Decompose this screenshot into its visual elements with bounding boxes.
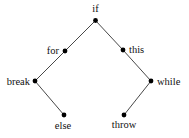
node-dot bbox=[62, 113, 67, 118]
tree-node-else: else bbox=[55, 113, 72, 131]
node-dot bbox=[121, 48, 126, 53]
node-dot bbox=[33, 79, 38, 84]
edge-break-else bbox=[35, 81, 64, 115]
node-label: this bbox=[129, 44, 144, 55]
node-label: while bbox=[157, 76, 181, 87]
node-label: for bbox=[47, 45, 60, 56]
tree-node-throw: throw bbox=[112, 113, 137, 130]
tree-node-if: if bbox=[92, 3, 99, 23]
node-dot bbox=[93, 18, 98, 23]
binary-tree-diagram: ifforthisbreakwhileelsethrow bbox=[0, 0, 189, 138]
node-dot bbox=[63, 49, 68, 54]
node-dot bbox=[149, 79, 154, 84]
tree-node-break: break bbox=[7, 76, 38, 87]
node-label: break bbox=[7, 76, 31, 87]
tree-node-for: for bbox=[47, 45, 68, 56]
tree-node-this: this bbox=[121, 44, 145, 55]
tree-edges bbox=[35, 21, 151, 116]
edge-if-this bbox=[96, 21, 124, 51]
node-label: if bbox=[92, 3, 99, 14]
edge-while-throw bbox=[124, 81, 151, 115]
edge-if-for bbox=[65, 21, 96, 52]
node-dot bbox=[122, 113, 127, 118]
node-label: else bbox=[55, 120, 72, 131]
node-label: throw bbox=[112, 119, 137, 130]
tree-node-while: while bbox=[149, 76, 181, 87]
